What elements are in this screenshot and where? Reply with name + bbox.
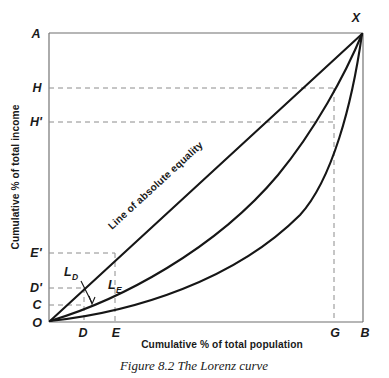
label-e-prime: E' xyxy=(30,246,42,260)
label-b: B xyxy=(360,326,369,340)
label-e: E xyxy=(112,326,121,340)
x-axis-title: Cumulative % of total population xyxy=(141,339,303,350)
figure-caption: Figure 8.2 The Lorenz curve xyxy=(119,358,268,373)
label-h-prime: H' xyxy=(30,115,43,129)
label-h: H xyxy=(32,81,42,95)
ld-pointer xyxy=(81,281,95,304)
label-x: X xyxy=(351,11,361,25)
curve-label-ld: L D xyxy=(64,265,78,282)
curve-label-ld-sub: D xyxy=(72,272,78,282)
figure-canvas: A X O B H H' E' D' C D E G L D L E Line … xyxy=(0,0,389,378)
label-a: A xyxy=(30,27,40,41)
curve-label-le-sub: E xyxy=(116,285,122,295)
guide-lines xyxy=(49,88,334,322)
y-axis-title: Cumulative % of total income xyxy=(10,104,21,249)
label-o: O xyxy=(32,316,42,330)
label-d: D xyxy=(78,326,87,340)
lorenz-curve-figure: A X O B H H' E' D' C D E G L D L E Line … xyxy=(0,0,389,378)
label-c: C xyxy=(32,298,42,312)
equality-line-annotation: Line of absolute equality xyxy=(106,139,205,231)
label-d-prime: D' xyxy=(30,281,43,295)
label-g: G xyxy=(330,326,340,340)
curve-label-ld-main: L xyxy=(64,265,72,279)
curve-label-le-main: L xyxy=(108,278,116,292)
